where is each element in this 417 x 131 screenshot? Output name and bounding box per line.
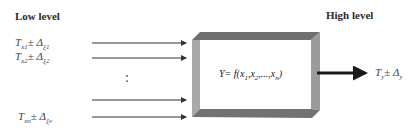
box-bevel-right xyxy=(311,32,320,110)
diagram-canvas xyxy=(0,0,417,131)
box-bevel-bottom xyxy=(192,109,320,118)
vertical-ellipsis: : xyxy=(125,70,129,86)
input-label-n: Txn± Δξv xyxy=(18,110,52,125)
input-arrows xyxy=(92,43,186,117)
input-label-2: Tx2± Δξ2 xyxy=(15,50,50,65)
input-label-1: Tx1± Δξ1 xyxy=(15,36,50,51)
function-formula: Y= f(x1,x2,...,xn) xyxy=(219,68,282,82)
box-bevel-left xyxy=(192,40,200,117)
output-label: Ty± Δy xyxy=(375,66,403,81)
box-bevel-top xyxy=(192,32,320,40)
